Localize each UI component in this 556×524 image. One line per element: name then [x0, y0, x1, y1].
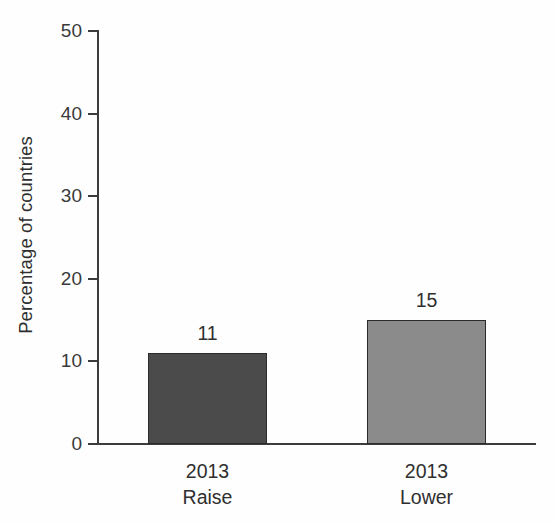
y-axis-tick-label: 30 — [40, 186, 82, 205]
bar-chart: Percentage of countries 01020304050 1115… — [0, 0, 556, 524]
y-axis-tick — [88, 443, 99, 445]
y-axis-tick — [88, 195, 99, 197]
bar[interactable] — [148, 353, 267, 444]
category-label-direction: Lower — [337, 484, 516, 510]
y-axis-title-text: Percentage of countries — [15, 136, 37, 334]
y-axis-tick — [88, 278, 99, 280]
y-axis-tick-label: 50 — [40, 21, 82, 40]
y-axis-tick — [88, 360, 99, 362]
y-axis-tick-label: 40 — [40, 104, 82, 123]
y-axis-tick — [88, 30, 99, 32]
category-label-year: 2013 — [186, 460, 229, 482]
y-axis-tick — [88, 113, 99, 115]
bar-value-label: 11 — [148, 324, 267, 344]
y-axis-line — [97, 30, 99, 445]
y-axis-tick-label: 0 — [40, 434, 82, 453]
x-axis-category-label: 2013Lower — [337, 458, 516, 511]
y-axis-tick-label: 20 — [40, 269, 82, 288]
y-axis-title: Percentage of countries — [14, 0, 38, 470]
category-label-year: 2013 — [405, 460, 448, 482]
bar[interactable] — [367, 320, 486, 444]
bar-value-label: 15 — [367, 291, 486, 311]
y-axis-tick-label: 10 — [40, 351, 82, 370]
x-axis-category-label: 2013Raise — [118, 458, 297, 511]
category-label-direction: Raise — [118, 484, 297, 510]
